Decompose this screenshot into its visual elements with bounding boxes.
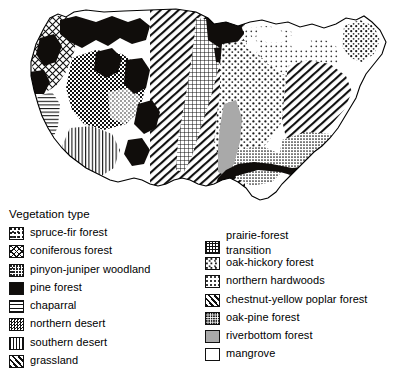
legend-item-chaparral[interactable]: chaparral <box>9 299 199 317</box>
legend-title: Vegetation type <box>9 208 90 220</box>
legend-label: grassland <box>30 354 78 368</box>
swatch-coniferous-forest <box>9 245 24 258</box>
legend-item-pinyon-juniper-woodland[interactable]: pinyon-juniper woodland <box>9 263 199 281</box>
legend-label: chestnut-yellow poplar forest <box>226 293 367 307</box>
swatch-spruce-fir-forest <box>9 227 24 240</box>
legend-item-oak-hickory-forest[interactable]: oak-hickory forest <box>205 256 415 274</box>
legend-label: pine forest <box>30 281 82 295</box>
swatch-mangrove <box>205 348 220 361</box>
swatch-riverbottom-forest <box>205 330 220 343</box>
map-fill-layer <box>0 0 415 215</box>
legend-label: prairie-forest transition <box>226 228 288 257</box>
legend-item-northern-hardwoods[interactable]: northern hardwoods <box>205 274 415 292</box>
legend-label: pinyon-juniper woodland <box>30 263 150 277</box>
legend-item-riverbottom-forest[interactable]: riverbottom forest <box>205 329 415 347</box>
legend-item-grassland[interactable]: grassland <box>9 354 199 372</box>
legend-label: southern desert <box>30 336 107 350</box>
legend-item-northern-desert[interactable]: northern desert <box>9 317 199 335</box>
map-illustration <box>0 0 415 215</box>
swatch-prairie-forest-transition <box>205 241 220 254</box>
swatch-northern-hardwoods <box>205 275 220 288</box>
legend-label: riverbottom forest <box>226 329 312 343</box>
legend-label: mangrove <box>226 347 275 361</box>
legend-item-pine-forest[interactable]: pine forest <box>9 281 199 299</box>
swatch-grassland <box>9 355 24 368</box>
legend-label: oak-pine forest <box>226 311 300 325</box>
legend-label: oak-hickory forest <box>226 256 314 270</box>
swatch-chaparral <box>9 300 24 313</box>
legend-label: coniferous forest <box>30 244 112 258</box>
legend-item-prairie-forest-transition[interactable]: prairie-forest transition <box>205 226 415 256</box>
swatch-northern-desert <box>9 318 24 331</box>
legend-label: chaparral <box>30 299 76 313</box>
swatch-southern-desert <box>9 337 24 350</box>
legend-column-right: prairie-forest transition oak-hickory fo… <box>205 226 415 366</box>
legend-item-southern-desert[interactable]: southern desert <box>9 336 199 354</box>
legend-label: northern desert <box>30 317 105 331</box>
legend-item-chestnut-yellow-poplar-forest[interactable]: chestnut-yellow poplar forest <box>205 293 415 311</box>
legend-item-mangrove[interactable]: mangrove <box>205 347 415 365</box>
legend-label: spruce-fir forest <box>30 226 107 240</box>
legend-label: northern hardwoods <box>226 274 325 288</box>
map-legend: Vegetation type spruce-fir forest conife… <box>0 200 415 388</box>
swatch-pinyon-juniper-woodland <box>9 264 24 277</box>
swatch-oak-hickory-forest <box>205 257 220 270</box>
swatch-oak-pine-forest <box>205 312 220 325</box>
legend-item-coniferous-forest[interactable]: coniferous forest <box>9 244 199 262</box>
swatch-pine-forest <box>9 282 24 295</box>
region-chaparral <box>32 92 60 150</box>
vegetation-map <box>0 0 415 210</box>
legend-column-left: spruce-fir forest coniferous forest piny… <box>9 226 199 372</box>
swatch-chestnut-yellow-poplar-forest <box>205 294 220 307</box>
legend-item-oak-pine-forest[interactable]: oak-pine forest <box>205 311 415 329</box>
legend-item-spruce-fir-forest[interactable]: spruce-fir forest <box>9 226 199 244</box>
